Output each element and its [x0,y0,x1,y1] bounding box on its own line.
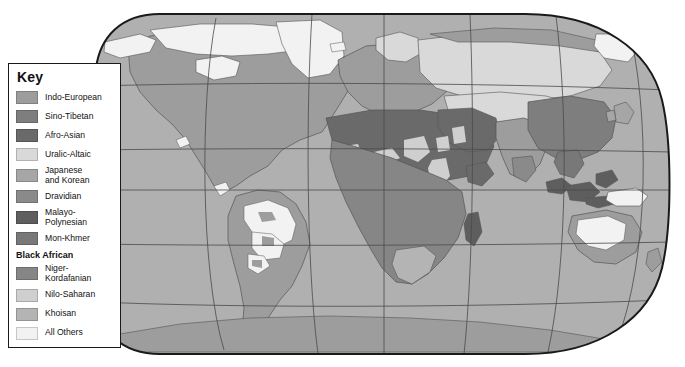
legend-swatch-nilo-saharan [16,289,38,302]
legend-item-nilo-saharan[interactable]: Nilo-Saharan [16,288,113,303]
legend-label-sino-tibetan: Sino-Tibetan [45,112,93,122]
legend-label-dravidian: Dravidian [45,192,81,202]
legend-title: Key [17,70,113,85]
legend-label-khoisan: Khoisan [45,309,76,319]
legend-swatch-afro-asian [16,129,38,142]
legend-swatch-dravidian [16,190,38,203]
map-figure: Key Indo-European Sino-Tibetan Afro-Asia… [0,0,685,367]
legend-label-uralic-altaic: Uralic-Altaic [45,150,91,160]
legend-swatch-japanese-and-korean [16,169,38,182]
landmass-korea [606,110,616,122]
legend-swatch-khoisan [16,308,38,321]
legend-swatch-niger-kordafanian [16,267,38,280]
legend-item-dravidian[interactable]: Dravidian [16,189,113,204]
legend-group-heading-black-african: Black African [16,250,113,260]
legend-item-khoisan[interactable]: Khoisan [16,307,113,322]
legend-label-indo-european: Indo-European [45,93,102,103]
region-nilo-saharan-4 [452,126,466,144]
legend-swatch-mon-khmer [16,232,38,245]
legend-swatch-malayo-polynesian [16,211,38,224]
map-legend: Key Indo-European Sino-Tibetan Afro-Asia… [8,63,121,348]
legend-label-all-others: All Others [45,328,83,338]
legend-item-niger-kordafanian[interactable]: Niger- Kordafanian [16,264,113,283]
legend-label-niger-kordafanian: Niger- Kordafanian [45,264,91,283]
legend-swatch-sino-tibetan [16,110,38,123]
legend-label-afro-asian: Afro-Asian [45,131,85,141]
legend-item-japanese-and-korean[interactable]: Japanese and Korean [16,166,113,185]
legend-item-malayo-polynesian[interactable]: Malayo- Polynesian [16,208,113,227]
map-body [80,8,680,364]
legend-item-sino-tibetan[interactable]: Sino-Tibetan [16,109,113,124]
legend-swatch-indo-european [16,91,38,104]
legend-item-all-others[interactable]: All Others [16,326,113,341]
legend-swatch-all-others [16,327,38,340]
legend-item-uralic-altaic[interactable]: Uralic-Altaic [16,147,113,162]
legend-label-malayo-polynesian: Malayo- Polynesian [45,208,87,227]
landmass-iceland [330,42,346,52]
legend-item-mon-khmer[interactable]: Mon-Khmer [16,231,113,246]
legend-swatch-uralic-altaic [16,148,38,161]
legend-label-mon-khmer: Mon-Khmer [45,234,90,244]
region-nilo-saharan-3 [436,136,450,152]
legend-label-japanese-and-korean: Japanese and Korean [45,166,89,185]
legend-item-indo-european[interactable]: Indo-European [16,90,113,105]
legend-label-nilo-saharan: Nilo-Saharan [45,290,95,300]
legend-item-afro-asian[interactable]: Afro-Asian [16,128,113,143]
